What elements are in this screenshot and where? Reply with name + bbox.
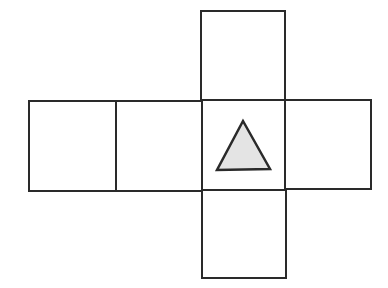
face-left-outer xyxy=(29,101,116,191)
face-left-inner xyxy=(116,101,202,191)
cube-net-faces xyxy=(29,11,371,278)
face-right xyxy=(285,100,371,189)
face-bottom xyxy=(202,190,286,278)
cube-net-diagram xyxy=(0,0,388,288)
face-top xyxy=(201,11,285,101)
